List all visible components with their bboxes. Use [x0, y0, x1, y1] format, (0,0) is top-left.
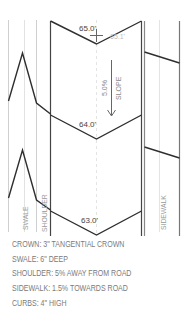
note-crown: CROWN: 3" TANGENTIAL CROWN	[12, 237, 158, 252]
note-shoulder: SHOULDER: 5% AWAY FROM ROAD	[12, 266, 158, 281]
note-sidewalk: SIDEWALK: 1.5% TOWARDS ROAD	[12, 281, 158, 296]
note-swale: SWALE: 6" DEEP	[12, 252, 158, 267]
slope-percent-label: 5.0%	[101, 80, 108, 96]
specification-notes: CROWN: 3" TANGENTIAL CROWN SWALE: 6" DEE…	[12, 237, 190, 311]
note-curbs: CURBS: 4" HIGH	[12, 296, 158, 311]
swale-label: SWALE	[22, 206, 29, 230]
swale-profile-top	[9, 53, 51, 114]
sidewalk-label: SIDEWALK	[160, 195, 167, 230]
elevation-middle: 64.0'	[79, 120, 97, 129]
shoulder-label: SHOULDER	[41, 194, 48, 232]
slope-label: SLOPE	[115, 76, 122, 100]
sidewalk-slope-middle	[145, 147, 180, 158]
sidewalk-slope-top	[145, 52, 180, 63]
elevation-bottom: 63.0'	[81, 216, 99, 225]
elevation-top-left: 65.0'	[79, 24, 97, 33]
elevation-top-right: 65.1'	[110, 33, 125, 40]
road-plan-diagram: 65.0' 65.1' 64.0' 63.0' 5.0% SLOPE SWALE…	[0, 0, 192, 240]
